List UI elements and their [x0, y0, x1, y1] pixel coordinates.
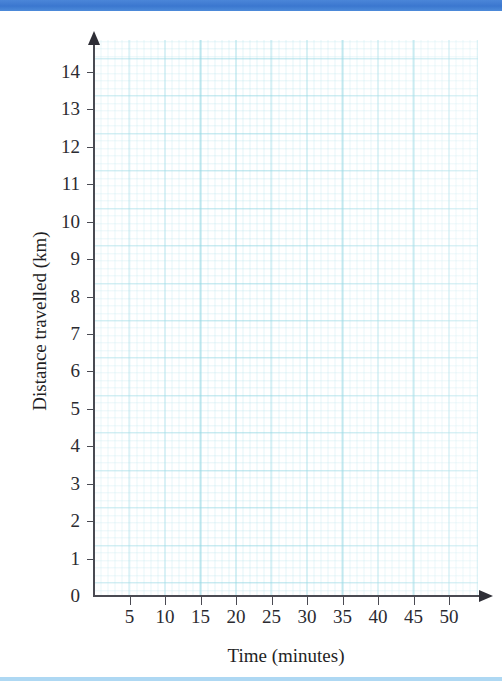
x-axis-tick-label: 5	[110, 607, 150, 626]
y-axis-tick-label: 0	[46, 586, 80, 605]
x-axis-tick	[414, 597, 415, 605]
y-axis-tick-label: 14	[46, 62, 80, 81]
y-axis-tick-label: 11	[46, 174, 80, 193]
x-axis-tick	[165, 597, 166, 605]
y-axis-line	[93, 44, 95, 597]
y-axis-tick	[87, 297, 95, 298]
y-axis-tick	[87, 259, 95, 260]
graph-figure: 01234567891011121314 5101520253035404550…	[0, 0, 502, 683]
y-axis-tick	[87, 371, 95, 372]
x-axis-tick	[201, 597, 202, 605]
x-axis-tick	[130, 597, 131, 605]
x-axis-tick-label: 40	[358, 607, 398, 626]
arrow-up-icon	[88, 31, 100, 45]
x-axis-tick	[343, 597, 344, 605]
y-axis-tick-label: 8	[46, 287, 80, 306]
x-axis-tick-label: 50	[429, 607, 469, 626]
y-axis-tick	[87, 446, 95, 447]
y-axis-tick-label: 4	[46, 436, 80, 455]
x-axis-line	[93, 595, 483, 597]
x-axis-tick-label: 20	[216, 607, 256, 626]
y-axis-tick-label: 13	[46, 99, 80, 118]
y-axis-tick	[87, 222, 95, 223]
x-axis-tick	[272, 597, 273, 605]
y-axis-tick-label: 7	[46, 324, 80, 343]
graph-paper-grid	[94, 40, 478, 596]
y-axis-tick-label: 12	[46, 137, 80, 156]
y-axis-tick-label: 10	[46, 212, 80, 231]
y-axis-tick	[87, 559, 95, 560]
arrow-right-icon	[479, 590, 493, 602]
y-axis-title: Distance travelled (km)	[29, 156, 51, 486]
y-axis-tick	[87, 409, 95, 410]
page-bottom-accent-bar	[0, 677, 502, 681]
y-axis-tick-label: 2	[46, 511, 80, 530]
y-axis-tick-label: 9	[46, 249, 80, 268]
x-axis-tick-label: 35	[323, 607, 363, 626]
x-axis-tick-label: 15	[181, 607, 221, 626]
y-axis-tick	[87, 334, 95, 335]
y-axis-tick	[87, 184, 95, 185]
x-axis-tick	[307, 597, 308, 605]
x-axis-tick-label: 10	[145, 607, 185, 626]
y-axis-tick-label: 5	[46, 399, 80, 418]
x-axis-title: Time (minutes)	[94, 645, 478, 667]
y-axis-tick-label: 3	[46, 474, 80, 493]
x-axis-tick-label: 25	[252, 607, 292, 626]
x-axis-tick	[236, 597, 237, 605]
y-axis-tick	[87, 484, 95, 485]
x-axis-tick-label: 45	[394, 607, 434, 626]
y-axis-tick	[87, 521, 95, 522]
y-axis-tick-label: 6	[46, 361, 80, 380]
y-axis-tick	[87, 109, 95, 110]
y-axis-tick-label: 1	[46, 549, 80, 568]
x-axis-tick-label: 30	[287, 607, 327, 626]
y-axis-tick	[87, 147, 95, 148]
y-axis-tick	[87, 72, 95, 73]
x-axis-tick	[378, 597, 379, 605]
x-axis-tick	[449, 597, 450, 605]
